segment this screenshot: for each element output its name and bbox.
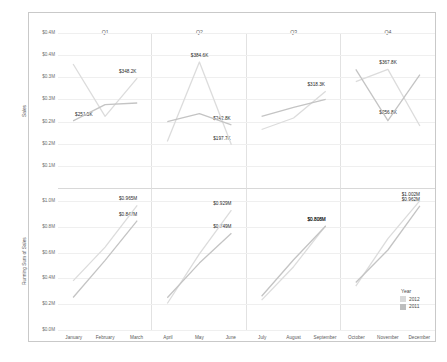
series-line-2011 — [73, 221, 137, 298]
series-line-2011 — [73, 103, 137, 121]
series-line-2012 — [73, 205, 137, 281]
series-line-2012 — [262, 91, 326, 129]
chart-root: Quarterly panes Q1Q2Q3Q4 $0.4M$0.4M$0.3M… — [0, 0, 447, 362]
series-lines — [0, 0, 447, 362]
series-line-2012 — [73, 64, 137, 116]
series-line-2011 — [262, 99, 326, 116]
series-line-2011 — [262, 226, 326, 296]
series-line-2011 — [356, 69, 420, 120]
series-line-2012 — [167, 62, 231, 145]
series-line-2012 — [167, 210, 231, 303]
series-line-2012 — [356, 69, 420, 126]
series-line-2011 — [167, 233, 231, 297]
